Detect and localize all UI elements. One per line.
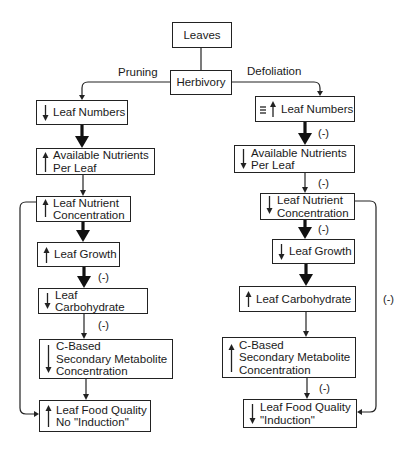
left-food-quality-line2: No "Induction" — [56, 416, 129, 428]
left-leaf-numbers-label: Leaf Numbers — [53, 106, 125, 119]
left-leaf-nutrient-concentration: Leaf NutrientConcentration — [36, 196, 131, 222]
right-edge-label-conc-growth: (-) — [318, 223, 329, 235]
right-available-nutrients: Available NutrientsPer Leaf — [234, 145, 355, 173]
up-arrow-icon — [244, 291, 253, 307]
left-edge-label-growth-carb: (-) — [98, 271, 109, 283]
left-c-based-line3: Concentration — [56, 365, 128, 377]
right-leaf-growth-label: Leaf Growth — [289, 245, 352, 258]
right-c-based-line1: C-Based — [239, 339, 284, 351]
down-arrow-icon — [43, 293, 52, 309]
left-c-based-line2: Secondary Metabolite — [56, 353, 167, 365]
down-arrow-icon — [239, 149, 248, 169]
right-leaf-growth: Leaf Growth — [272, 239, 355, 264]
left-available-nutrients-line1: Available Nutrients — [53, 149, 149, 161]
left-c-based-line1: C-Based — [56, 340, 101, 352]
node-leaves: Leaves — [172, 22, 232, 48]
right-c-based-line3: Concentration — [239, 364, 311, 376]
right-c-based-secondary-metabolite: C-BasedSecondary MetaboliteConcentration — [222, 337, 356, 378]
up-arrow-icon — [41, 152, 50, 172]
equal-or-up-arrow-icon — [260, 101, 278, 117]
right-nutrient-conc-line2: Concentration — [277, 207, 349, 219]
right-nutrient-conc-line1: Leaf Nutrient — [277, 194, 343, 206]
right-edge-label-nutrients-conc: (-) — [318, 177, 329, 189]
left-leaf-carbohydrate: Leaf Carbohydrate — [38, 288, 148, 314]
right-leaf-numbers: Leaf Numbers — [255, 96, 355, 122]
right-leaf-carbohydrate: Leaf Carbohydrate — [239, 286, 356, 312]
left-nutrient-conc-line2: Concentration — [53, 209, 125, 221]
left-leaf-numbers: Leaf Numbers — [36, 100, 128, 125]
right-edge-label-numbers-nutrients: (-) — [318, 127, 329, 139]
down-arrow-icon — [277, 244, 286, 260]
left-leaf-growth-label: Leaf Growth — [54, 248, 117, 261]
left-c-based-secondary-metabolite: C-BasedSecondary MetaboliteConcentration — [39, 339, 173, 379]
right-leaf-carbohydrate-label: Leaf Carbohydrate — [256, 293, 351, 306]
right-feedback-label: (-) — [383, 293, 394, 305]
left-food-quality-line1: Leaf Food Quality — [56, 404, 147, 416]
up-arrow-icon — [227, 344, 236, 372]
down-arrow-icon — [41, 105, 50, 121]
right-leaf-nutrient-concentration: Leaf NutrientConcentration — [260, 193, 355, 220]
right-leaf-numbers-label: Leaf Numbers — [281, 103, 353, 116]
node-herbivory: Herbivory — [170, 70, 232, 95]
node-herbivory-label: Herbivory — [176, 76, 225, 89]
branch-label-pruning: Pruning — [118, 66, 158, 78]
left-available-nutrients: Available NutrientsPer Leaf — [36, 148, 155, 175]
up-arrow-icon — [41, 199, 50, 217]
right-c-based-line2: Secondary Metabolite — [239, 351, 350, 363]
down-arrow-icon — [265, 196, 274, 214]
down-arrow-icon — [44, 345, 53, 373]
left-available-nutrients-line2: Per Leaf — [53, 162, 96, 174]
up-arrow-icon — [42, 247, 51, 263]
left-leaf-carbohydrate-label: Leaf Carbohydrate — [55, 289, 147, 314]
branch-label-defoliation: Defoliation — [247, 65, 301, 77]
left-edge-label-carb-metabolite: (-) — [98, 319, 109, 331]
node-leaves-label: Leaves — [183, 29, 220, 42]
right-leaf-food-quality: Leaf Food Quality"Induction" — [243, 399, 357, 428]
right-food-quality-line2: "Induction" — [260, 414, 315, 426]
left-leaf-growth: Leaf Growth — [37, 242, 120, 267]
right-available-nutrients-line1: Available Nutrients — [251, 147, 347, 159]
connector-lines — [0, 0, 418, 452]
left-nutrient-conc-line1: Leaf Nutrient — [53, 197, 119, 209]
right-food-quality-line1: Leaf Food Quality — [260, 401, 351, 413]
right-edge-label-metabolite-quality: (-) — [319, 382, 330, 394]
left-leaf-food-quality: Leaf Food QualityNo "Induction" — [39, 400, 151, 432]
right-available-nutrients-line2: Per Leaf — [251, 159, 294, 171]
down-arrow-icon — [248, 404, 257, 424]
up-arrow-icon — [44, 405, 53, 427]
